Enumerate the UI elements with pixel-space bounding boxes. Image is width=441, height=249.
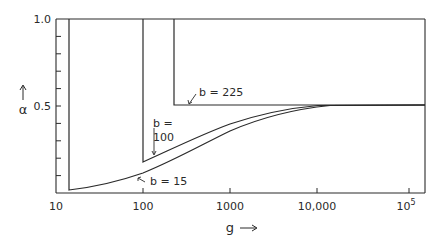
annotation-b15: b = 15 [150,175,187,188]
x-ticks [143,188,409,193]
xtick-label-1000: 1000 [216,200,244,213]
annotation-b100-line2: 100 [153,131,174,144]
y-ticks [56,36,61,175]
xtick-label-100: 100 [133,200,154,213]
x-axis-arrow-icon [240,225,257,231]
annotation-b100-line1: b = [153,117,173,130]
xtick-label-1e5: 105 [396,198,415,213]
series-b100 [143,19,425,162]
ytick-label-1.0: 1.0 [34,13,52,26]
y-axis-arrow-icon [20,85,26,100]
x-axis-title: g [226,220,234,235]
annotation-b225: b = 225 [199,86,243,99]
chart: 1.0 0.5 α 10 100 1000 10,000 105 g b = 2… [0,0,441,249]
ytick-label-0.5: 0.5 [34,100,52,113]
y-axis-title: α [19,102,28,117]
xtick-label-10: 10 [49,200,63,213]
xtick-label-10000: 10,000 [298,200,337,213]
plot-frame [56,19,425,193]
